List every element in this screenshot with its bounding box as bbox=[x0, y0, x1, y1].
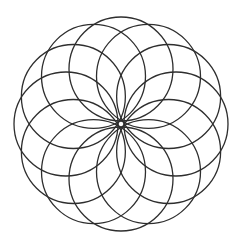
rosette-figure bbox=[0, 0, 244, 237]
